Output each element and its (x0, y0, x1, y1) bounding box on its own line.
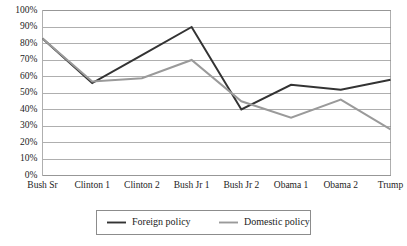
y-axis-tick-label: 20% (20, 137, 38, 147)
line-chart: 100%90%80%70%60%50%40%30%20%10%0% Bush S… (0, 0, 407, 246)
chart-legend: Foreign policyDomestic policy (97, 211, 311, 235)
y-axis-tick-label: 30% (20, 120, 38, 130)
chart-canvas: 100%90%80%70%60%50%40%30%20%10%0% Bush S… (0, 0, 407, 246)
y-axis-tick-label: 50% (20, 87, 38, 97)
y-axis-tick-label: 70% (20, 54, 38, 64)
legend-label-foreign-policy: Foreign policy (132, 216, 191, 227)
x-axis-tick-label: Clinton 2 (124, 180, 160, 190)
legend-label-domestic-policy: Domestic policy (244, 216, 310, 227)
x-axis-tick-label: Bush Sr (27, 180, 58, 190)
y-axis-tick-label: 90% (20, 21, 38, 31)
gridlines-group (43, 11, 391, 176)
x-axis-tick-label: Obama 1 (274, 180, 309, 190)
x-axis-tick-label: Trump (378, 180, 404, 190)
series-line-foreign-policy (43, 27, 391, 110)
series-line-domestic-policy (43, 39, 391, 130)
y-axis-tick-label: 80% (20, 38, 38, 48)
x-axis-tick-label: Clinton 1 (74, 180, 110, 190)
x-axis-tick-label: Bush Jr 2 (223, 180, 259, 190)
y-axis-tick-label: 100% (15, 5, 37, 15)
x-axis-tick-label: Obama 2 (324, 180, 359, 190)
y-axis-tick-label: 40% (20, 104, 38, 114)
y-axis-tick-label: 0% (25, 170, 38, 180)
x-axis-labels: Bush SrClinton 1Clinton 2Bush Jr 1Bush J… (27, 180, 403, 190)
series-lines (43, 27, 391, 129)
x-axis-tick-label: Bush Jr 1 (174, 180, 210, 190)
y-axis-tick-label: 10% (20, 153, 38, 163)
y-axis-tick-label: 60% (20, 71, 38, 81)
y-axis-labels: 100%90%80%70%60%50%40%30%20%10%0% (15, 5, 37, 180)
